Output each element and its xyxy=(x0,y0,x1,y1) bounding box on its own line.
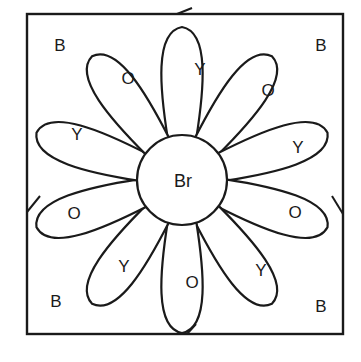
corner-label-top-left: B xyxy=(54,36,65,55)
petal-top xyxy=(161,27,202,140)
petal-label-right-upper: Y xyxy=(292,138,303,157)
petal-label-right-lower: O xyxy=(288,203,301,222)
petal-label-upper-left: O xyxy=(121,69,134,88)
petal-label-lower-left: Y xyxy=(118,257,129,276)
corner-label-bottom-right: B xyxy=(315,297,326,316)
corner-label-bottom-left: B xyxy=(50,292,61,311)
frame-tick-left xyxy=(27,196,40,212)
petal-label-upper-right: O xyxy=(261,81,274,100)
petal-label-bottom: O xyxy=(185,273,198,292)
flower-diagram: Br Y O Y O Y O Y O Y O B B B B xyxy=(0,0,361,362)
frame-tick-right xyxy=(332,196,343,214)
center-label: Br xyxy=(174,171,192,191)
corner-label-top-right: B xyxy=(315,36,326,55)
petal-label-left-lower: O xyxy=(67,204,80,223)
petal-label-lower-right: Y xyxy=(255,261,266,280)
petal-label-top: Y xyxy=(194,60,205,79)
petal-label-left-upper: Y xyxy=(71,125,82,144)
